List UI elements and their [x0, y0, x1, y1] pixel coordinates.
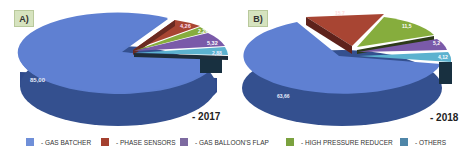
svg-text:11,5: 11,5 [402, 23, 412, 29]
legend-item-others: - OTHERS [400, 138, 446, 146]
svg-text:2,24: 2,24 [198, 28, 208, 34]
value-label: 85,00 [30, 77, 46, 83]
pie-chart-2017: 85,00 4,26 2,24 5,32 2,88 A) - 2017 [0, 0, 234, 132]
legend-swatch [286, 138, 294, 146]
svg-text:4,12: 4,12 [438, 54, 448, 60]
legend-label: - GAS BALLOON'S FLAP [195, 139, 269, 146]
svg-text:63,66: 63,66 [277, 93, 290, 99]
legend-item-gas-batcher: - GAS BATCHER [26, 138, 91, 146]
year-label-2017: - 2017 [192, 111, 220, 122]
legend-item-phase-sensors: - PHASE SENSORS [101, 138, 176, 146]
svg-text:2,88: 2,88 [212, 50, 222, 56]
svg-text:5,32: 5,32 [207, 40, 218, 46]
legend-item-gas-balloons-flap: - GAS BALLOON'S FLAP [180, 138, 269, 146]
legend-swatch [26, 138, 34, 146]
panel-label-b: B) [248, 10, 268, 27]
legend-label: - HIGH PRESSURE REDUCER [301, 139, 393, 146]
panel-label-a: A) [14, 10, 34, 27]
legend-label: - GAS BATCHER [41, 139, 91, 146]
legend-swatch [101, 138, 109, 146]
pie-chart-2018: 15,7 11,5 5,2 4,12 63,66 B) - 2018 [234, 0, 468, 132]
year-label-2018: - 2018 [430, 112, 458, 123]
svg-text:15,7: 15,7 [335, 10, 345, 16]
svg-text:4,26: 4,26 [180, 23, 191, 29]
legend-label: - OTHERS [415, 139, 446, 146]
legend-item-high-pressure-reducer: - HIGH PRESSURE REDUCER [286, 138, 393, 146]
legend-swatch [180, 138, 188, 146]
chart-legend: - GAS BATCHER - PHASE SENSORS - GAS BALL… [0, 138, 468, 152]
legend-label: - PHASE SENSORS [116, 139, 176, 146]
legend-swatch [400, 138, 408, 146]
svg-text:5,2: 5,2 [433, 40, 440, 46]
